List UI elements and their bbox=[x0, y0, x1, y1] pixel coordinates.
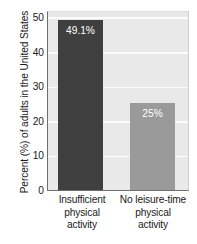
x-label-2-line-3: activity bbox=[105, 219, 197, 232]
x-label-2-line-1: No leisure-time bbox=[105, 194, 197, 207]
x-axis-category-labels: Insufficient physical activity No leisur… bbox=[47, 194, 197, 242]
y-axis-tick-labels: 0 10 20 30 40 50 bbox=[24, 11, 44, 191]
y-tick-30: 30 bbox=[24, 82, 44, 92]
plot-area: 49.1% 25% bbox=[47, 11, 189, 191]
y-tick-40: 40 bbox=[24, 48, 44, 58]
gridline-50 bbox=[48, 17, 188, 19]
x-label-no-leisure-time-physical-activity: No leisure-time physical activity bbox=[105, 194, 197, 232]
y-tick-20: 20 bbox=[24, 117, 44, 127]
bar-value-label-2: 25% bbox=[130, 108, 175, 119]
y-tick-50: 50 bbox=[24, 13, 44, 23]
y-tick-10: 10 bbox=[24, 151, 44, 161]
bar-no-leisure-time-physical-activity: 25% bbox=[130, 103, 175, 190]
bar-value-label-1: 49.1% bbox=[58, 25, 103, 36]
x-label-2-line-2: physical bbox=[105, 207, 197, 220]
bar-insufficient-physical-activity: 49.1% bbox=[58, 20, 103, 190]
bar-chart: Percent (%) of adults in the United Stat… bbox=[0, 0, 197, 244]
